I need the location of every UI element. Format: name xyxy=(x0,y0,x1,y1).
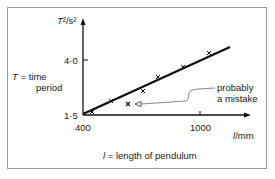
x-axis-arrow-icon xyxy=(244,113,251,118)
x-axis-label: l/mm xyxy=(233,130,254,141)
y-axis-label: T²/s² xyxy=(57,15,77,26)
annotation-arrow-icon xyxy=(135,102,141,107)
x-tick-label-1000: 1000 xyxy=(190,122,211,133)
annotation-leader xyxy=(141,88,215,104)
y-tick-label-1-5: 1·5 xyxy=(64,110,78,121)
annotation-line1: probably xyxy=(217,82,253,93)
best-fit-line xyxy=(83,47,230,114)
y-tick-label-4: 4·0 xyxy=(64,55,78,66)
annotation-line2: a mistake xyxy=(217,93,258,104)
legend-l: l = length of pendulum xyxy=(103,150,197,161)
x-tick-label-400: 400 xyxy=(75,122,91,133)
y-axis-arrow-icon xyxy=(81,18,86,25)
legend-T: T = time xyxy=(12,71,47,82)
legend-T-cont: period xyxy=(36,82,62,93)
outlier-point xyxy=(126,102,130,106)
